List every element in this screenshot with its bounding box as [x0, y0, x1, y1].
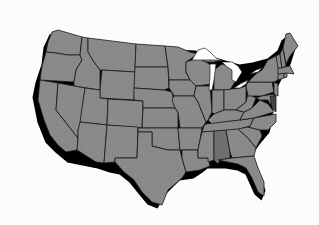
state-colorado[interactable] [107, 99, 143, 128]
us-map-svg [0, 0, 319, 225]
state-new-mexico[interactable] [104, 125, 138, 163]
us-map [0, 0, 319, 225]
state-north-dakota[interactable] [135, 44, 168, 67]
lake-superior [192, 48, 222, 60]
states-group [38, 30, 298, 205]
state-rhode-island[interactable] [284, 73, 287, 78]
state-wyoming[interactable] [100, 70, 135, 100]
state-kansas[interactable] [142, 108, 178, 128]
state-new-jersey[interactable] [274, 82, 278, 96]
state-washington[interactable] [46, 30, 82, 55]
state-south-dakota[interactable] [134, 67, 169, 90]
